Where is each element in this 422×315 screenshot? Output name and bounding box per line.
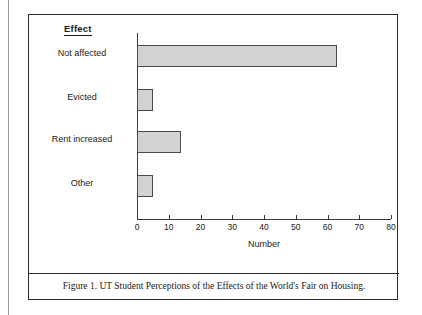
- x-tick-label-40: 40: [259, 222, 268, 232]
- category-label-rent-increased: Rent increased: [27, 135, 137, 144]
- x-axis-title: Number: [137, 239, 391, 249]
- chart-plot-area: Effect Not affected Evicted Rent increas…: [29, 15, 399, 273]
- x-tick-label-20: 20: [196, 222, 205, 232]
- bar-evicted: [137, 89, 153, 111]
- category-label-other: Other: [27, 179, 137, 188]
- x-tick-label-30: 30: [228, 222, 237, 232]
- x-tick-label-10: 10: [164, 222, 173, 232]
- x-tick-60: [328, 215, 329, 219]
- x-tick-label-70: 70: [355, 222, 364, 232]
- x-tick-20: [201, 215, 202, 219]
- category-label-column: Not affected Evicted Rent increased Othe…: [29, 15, 137, 273]
- figure-caption: Figure 1. UT Student Perceptions of the …: [29, 273, 399, 299]
- category-label-not-affected: Not affected: [27, 49, 137, 58]
- x-tick-0: [137, 215, 138, 219]
- bar-other: [137, 175, 153, 197]
- bar-rent-increased: [137, 131, 181, 153]
- x-tick-label-80: 80: [386, 222, 395, 232]
- x-tick-80: [391, 215, 392, 219]
- x-tick-label-60: 60: [323, 222, 332, 232]
- page-edge-line: [8, 0, 9, 315]
- x-tick-70: [359, 215, 360, 219]
- x-tick-40: [264, 215, 265, 219]
- x-tick-label-0: 0: [135, 222, 140, 232]
- x-tick-30: [232, 215, 233, 219]
- x-tick-10: [169, 215, 170, 219]
- figure-container: Effect Not affected Evicted Rent increas…: [28, 14, 398, 300]
- bar-not-affected: [137, 45, 337, 67]
- category-label-evicted: Evicted: [27, 93, 137, 102]
- x-tick-50: [296, 215, 297, 219]
- x-tick-label-50: 50: [291, 222, 300, 232]
